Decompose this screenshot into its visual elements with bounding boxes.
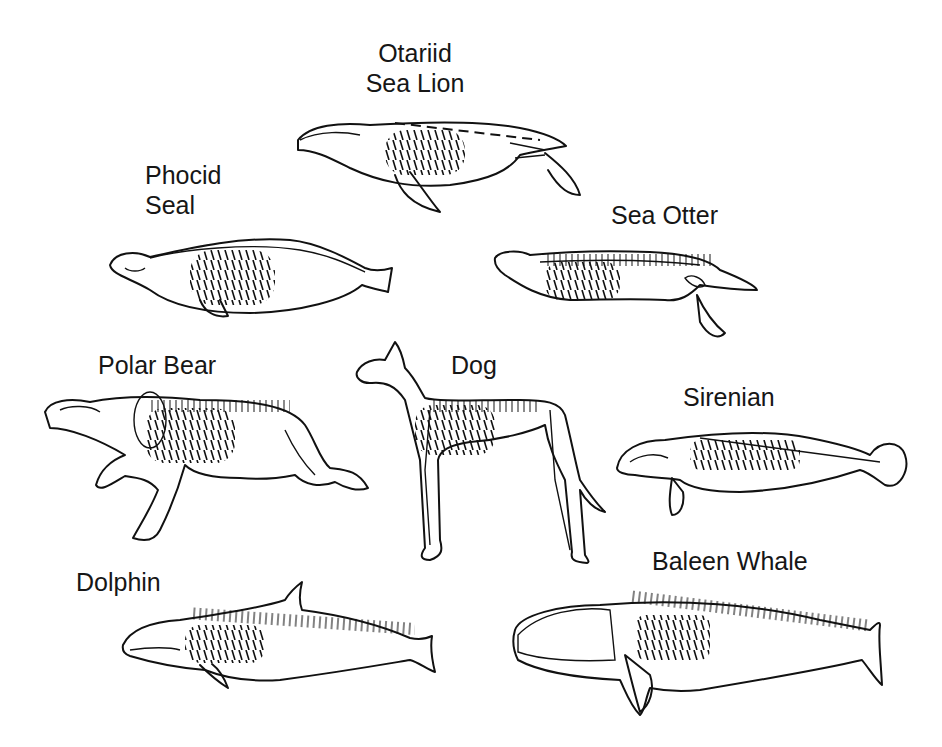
dolphin-skeleton-icon [123, 582, 435, 688]
sirenian-skeleton-icon [617, 433, 906, 515]
skeleton-illustrations [0, 0, 942, 747]
otariid-sea-lion-skeleton-icon [298, 122, 580, 212]
dog-skeleton-icon [357, 342, 605, 563]
baleen-whale-skeleton-icon [513, 590, 882, 715]
polar-bear-skeleton-icon [45, 392, 368, 540]
phocid-seal-skeleton-icon [110, 239, 392, 316]
sea-otter-skeleton-icon [495, 251, 757, 336]
